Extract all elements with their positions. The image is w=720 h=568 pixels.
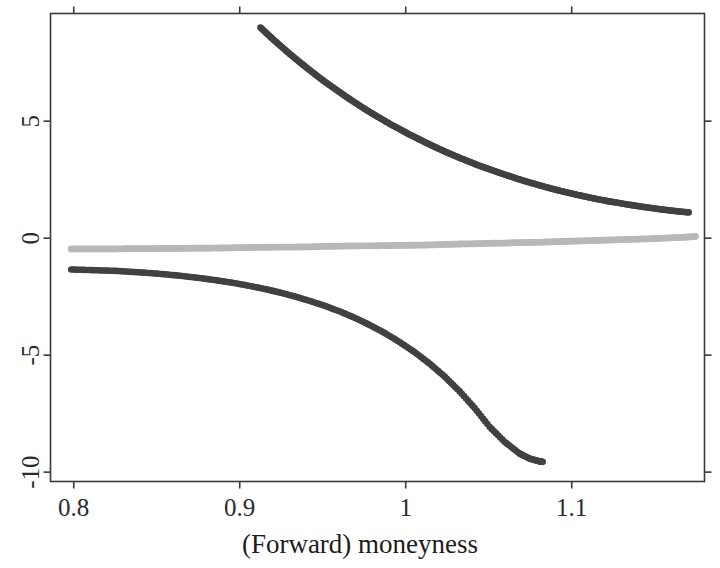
x-axis-title: (Forward) moneyness <box>242 529 478 559</box>
x-tick-label: 0.9 <box>224 494 255 521</box>
x-tick-label: 0.8 <box>58 494 89 521</box>
data-point <box>539 459 546 466</box>
y-tick-label: -5 <box>17 345 44 366</box>
y-tick-label: -10 <box>17 455 44 488</box>
x-tick-label: 1 <box>399 494 412 521</box>
data-point <box>685 209 692 216</box>
chart-root: 0.80.911.1 50-5-10 (Forward) moneyness <box>0 0 720 568</box>
y-tick-label: 5 <box>17 115 44 128</box>
y-tick-label: 0 <box>17 232 44 245</box>
x-tick-label: 1.1 <box>556 494 587 521</box>
scatter-chart: 0.80.911.1 50-5-10 (Forward) moneyness <box>0 0 720 568</box>
chart-background <box>0 0 720 568</box>
data-point <box>692 233 699 240</box>
